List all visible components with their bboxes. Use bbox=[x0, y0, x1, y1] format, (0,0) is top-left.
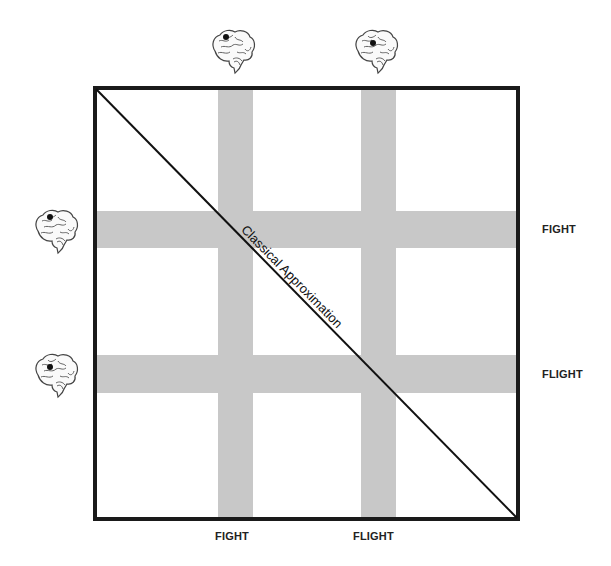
column-label-flight: FLIGHT bbox=[353, 530, 394, 542]
brain-icon bbox=[350, 27, 400, 75]
column-label-fight: FIGHT bbox=[215, 530, 249, 542]
row-label-fight: FIGHT bbox=[542, 223, 576, 235]
brain-icon bbox=[30, 207, 80, 255]
brain-icon bbox=[30, 351, 80, 399]
row-label-flight: FLIGHT bbox=[542, 368, 583, 380]
brain-icon bbox=[207, 27, 257, 75]
